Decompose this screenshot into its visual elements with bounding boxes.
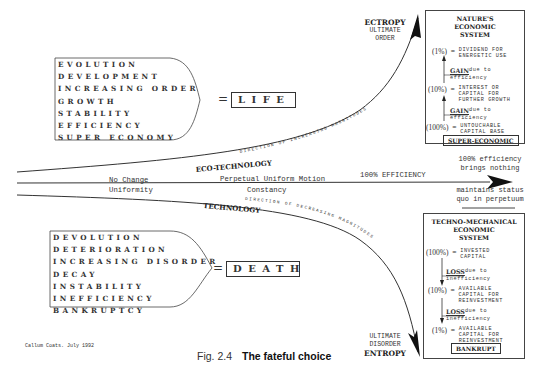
life-item: EFFICIENCY [58, 120, 199, 132]
author-credit: Callum Coats. July 1992 [25, 343, 94, 349]
eco-technology-label: ECO-TECHNOLOGY [195, 158, 273, 174]
ectropy-sub2: ORDER [350, 35, 420, 43]
technology-label: TECHNOLOGY [203, 201, 262, 215]
death-item: INEFFICIENCY [53, 293, 219, 305]
life-attributes-list: EVOLUTION DEVELOPMENT INCREASING ORDER G… [58, 59, 199, 144]
entropy-sub1: ULTIMATE [350, 333, 420, 341]
no-change-label: No Change Uniformity [109, 175, 153, 195]
death-item: DETERIORATION [53, 244, 219, 256]
life-item: STABILITY [58, 108, 199, 120]
death-item: INCREASING DISORDER [53, 256, 219, 268]
life-item: EVOLUTION [58, 59, 199, 71]
nature-up-arrows [426, 11, 524, 143]
status-quo-note: maintains status quo in perpetuum [450, 186, 530, 204]
figure-caption: Fig. 2.4The fateful choice [197, 350, 331, 362]
death-attributes-list: DEVOLUTION DETERIORATION INCREASING DISO… [53, 232, 219, 317]
life-item: SUPER ECONOMY [58, 132, 199, 144]
efficiency-note-top: 100% efficiency brings nothing [450, 155, 530, 173]
life-equals: = [218, 92, 228, 106]
death-equals: = [213, 261, 223, 275]
perpetual-motion-label: Perpetual Uniform Motion [220, 175, 325, 183]
constancy-label: Constancy [247, 186, 286, 194]
super-economic-tag: SUPER-ECONOMIC [443, 135, 519, 146]
techno-economic-box: TECHNO-MECHANICAL ECONOMIC SYSTEM (100%)… [423, 213, 525, 359]
note-top-line2: brings nothing [450, 164, 530, 173]
bankrupt-tag: BANKRUPT [451, 343, 501, 354]
life-item: DEVELOPMENT [58, 71, 199, 83]
ectropy-heading: ECTROPY [350, 18, 420, 27]
efficiency-label: 100% EFFICIENCY [360, 171, 426, 179]
life-item: INCREASING ORDER [58, 83, 199, 95]
note-bottom-line2: quo in perpetuum [450, 195, 530, 204]
death-item: INSTABILITY [53, 281, 219, 293]
life-result-box: LIFE [231, 92, 296, 108]
ectropy-sub1: ULTIMATE [350, 27, 420, 35]
no-change-text: No Change [109, 175, 153, 185]
death-item: BANKRUPTCY [53, 305, 219, 317]
note-bottom-line1: maintains status [450, 186, 530, 195]
death-result-box: DEATH [226, 261, 300, 277]
ectropy-label: ECTROPY ULTIMATE ORDER [350, 18, 420, 43]
entropy-heading: ENTROPY [350, 349, 420, 358]
techno-down-arrows [424, 214, 524, 358]
figure-number: Fig. 2.4 [197, 350, 232, 362]
death-item: DECAY [53, 269, 219, 281]
uniformity-text: Uniformity [109, 185, 153, 195]
figure-title: The fateful choice [242, 350, 331, 362]
upper-direction-text: DIRECTION OF INCREASING MAGNITUDES [239, 106, 368, 154]
death-item: DEVOLUTION [53, 232, 219, 244]
lower-direction-text: DIRECTION OF DECREASING MAGNITUDES [245, 196, 375, 240]
life-item: GROWTH [58, 96, 199, 108]
entropy-sub2: DISORDER [350, 341, 420, 349]
nature-economic-box: NATURE'S ECONOMIC SYSTEM (1%) = DIVIDEND… [425, 10, 525, 144]
entropy-label: ULTIMATE DISORDER ENTROPY [350, 333, 420, 358]
note-top-line1: 100% efficiency [450, 155, 530, 164]
